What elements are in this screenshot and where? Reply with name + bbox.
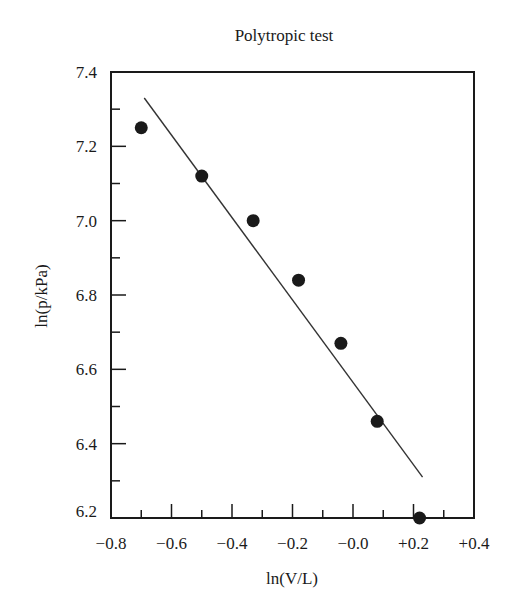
y-tick-label: 6.2	[76, 502, 97, 521]
x-tick-label: −0.0	[338, 534, 369, 553]
y-axis: 6.26.46.66.87.07.27.4	[76, 63, 126, 521]
chart-title: Polytropic test	[235, 26, 334, 45]
series-layer	[135, 98, 426, 524]
y-tick-label: 6.6	[76, 360, 97, 379]
plot-frame	[111, 72, 474, 518]
data-point	[334, 337, 347, 350]
plot-area	[111, 72, 474, 518]
y-tick-label: 7.0	[76, 212, 97, 231]
chart: Polytropic test −0.8−0.6−0.4−0.2−0.0+0.2…	[0, 0, 519, 614]
data-point	[292, 274, 305, 287]
x-axis: −0.8−0.6−0.4−0.2−0.0+0.2+0.4	[96, 504, 490, 553]
x-tick-label: −0.4	[217, 534, 248, 553]
data-point	[195, 170, 208, 183]
x-axis-label: ln(V/L)	[266, 569, 318, 588]
x-tick-label: −0.8	[96, 534, 127, 553]
data-point	[247, 214, 260, 227]
y-tick-label: 6.8	[76, 286, 97, 305]
y-tick-label: 7.4	[76, 63, 98, 82]
x-tick-label: −0.2	[277, 534, 308, 553]
x-tick-label: +0.4	[459, 534, 490, 553]
y-axis-label: ln(p/kPa)	[32, 264, 51, 327]
data-point	[135, 121, 148, 134]
data-point	[413, 512, 426, 525]
x-tick-label: +0.2	[398, 534, 429, 553]
data-point	[371, 415, 384, 428]
x-tick-label: −0.6	[156, 534, 187, 553]
y-tick-label: 7.2	[76, 137, 97, 156]
y-tick-label: 6.4	[76, 435, 98, 454]
